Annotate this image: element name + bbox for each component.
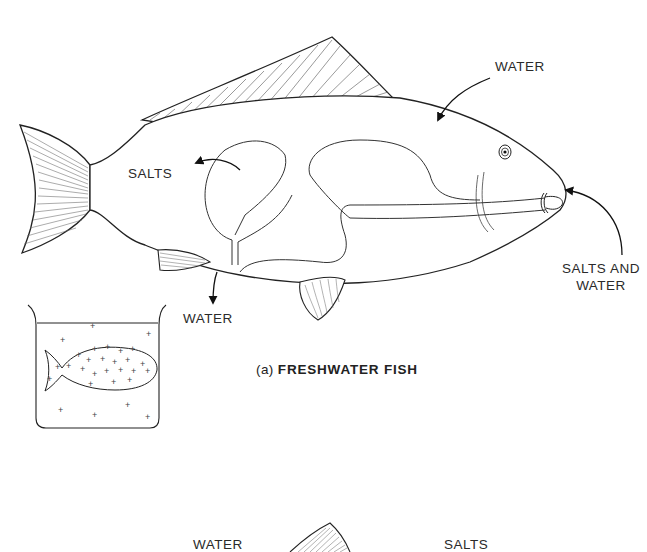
svg-text:+: + <box>66 361 71 371</box>
svg-text:+: + <box>55 362 60 372</box>
svg-text:+: + <box>92 369 97 379</box>
label-salts-and-water-line2: WATER <box>556 277 646 294</box>
salts-and-water-in-arrow <box>566 190 622 255</box>
svg-text:+: + <box>104 366 109 376</box>
caption-prefix: (a) <box>256 362 274 377</box>
svg-text:+: + <box>60 335 65 345</box>
label-salts-and-water: SALTS AND WATER <box>556 260 646 294</box>
svg-text:+: + <box>127 375 132 385</box>
svg-text:+: + <box>47 374 52 384</box>
fish-eye <box>499 145 511 159</box>
svg-text:+: + <box>80 364 85 374</box>
svg-text:+: + <box>58 405 63 415</box>
panel-b-label-water: WATER <box>193 537 243 552</box>
label-water-in: WATER <box>495 59 545 74</box>
svg-text:+: + <box>118 365 123 375</box>
label-water-out: WATER <box>183 311 233 326</box>
svg-text:+: + <box>130 344 135 354</box>
fish-illustration: + + + + + + + + + + + + + + + + + + + + <box>0 0 647 552</box>
tail-fin <box>20 125 90 253</box>
svg-text:+: + <box>145 366 150 376</box>
pelvic-fin <box>300 277 345 320</box>
panel-b-label-salts: SALTS <box>444 537 488 552</box>
svg-text:+: + <box>86 355 91 365</box>
svg-text:+: + <box>90 321 95 331</box>
svg-text:+: + <box>118 346 123 356</box>
svg-text:+: + <box>88 379 93 389</box>
svg-text:+: + <box>76 350 81 360</box>
svg-text:+: + <box>145 412 150 422</box>
figure-caption: (a) FRESHWATER FISH <box>256 362 418 377</box>
panel-b-dorsal-fin-partial <box>290 523 350 552</box>
water-out-arrow <box>213 272 217 303</box>
svg-text:+: + <box>105 342 110 352</box>
beaker-inset: + + + + + + + + + + + + + + + + + + + + <box>28 305 166 428</box>
svg-text:+: + <box>111 377 116 387</box>
svg-text:+: + <box>112 357 117 367</box>
label-salts-and-water-line1: SALTS AND <box>556 260 646 277</box>
svg-text:+: + <box>92 410 97 420</box>
svg-text:+: + <box>146 329 151 339</box>
svg-text:+: + <box>125 400 130 410</box>
freshwater-fish-osmoregulation-diagram: + + + + + + + + + + + + + + + + + + + + <box>0 0 647 552</box>
label-salts-out: SALTS <box>128 166 172 181</box>
svg-text:+: + <box>100 354 105 364</box>
caption-title: FRESHWATER FISH <box>278 362 418 377</box>
svg-text:+: + <box>125 355 130 365</box>
svg-text:+: + <box>92 344 97 354</box>
